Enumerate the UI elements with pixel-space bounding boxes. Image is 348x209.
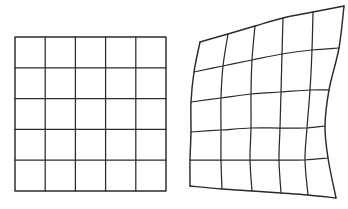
- grid-outline-top: [200, 6, 344, 42]
- source-grid: [15, 37, 166, 191]
- grid-outline-bottom: [190, 186, 336, 198]
- warped-grid: [190, 6, 344, 198]
- grid-line-vertical: [305, 12, 313, 195]
- grid-line-vertical: [279, 18, 283, 193]
- diagram-canvas: [0, 0, 348, 209]
- grid-line-horizontal: [194, 48, 339, 72]
- grid-outline-left: [190, 42, 200, 186]
- grid-outline: [15, 37, 166, 191]
- grid-outline-right: [325, 6, 344, 198]
- grid-line-vertical: [221, 34, 228, 189]
- grid-line-horizontal: [190, 158, 328, 160]
- grid-line-horizontal: [191, 90, 329, 102]
- grid-deformation-figure: [0, 0, 348, 209]
- grid-line-vertical: [250, 26, 255, 191]
- grid-line-horizontal: [191, 126, 325, 132]
